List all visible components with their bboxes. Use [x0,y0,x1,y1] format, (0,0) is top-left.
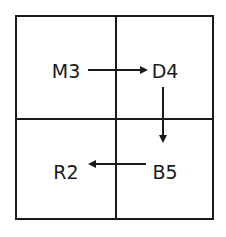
grid-outer-border [16,16,213,219]
cell-label-bottom-left: R2 [53,163,78,182]
cell-label-top-right: D4 [152,62,179,81]
cell-label-top-left: M3 [52,62,80,81]
cell-label-bottom-right: B5 [152,163,177,182]
grid-diagram [0,0,226,237]
